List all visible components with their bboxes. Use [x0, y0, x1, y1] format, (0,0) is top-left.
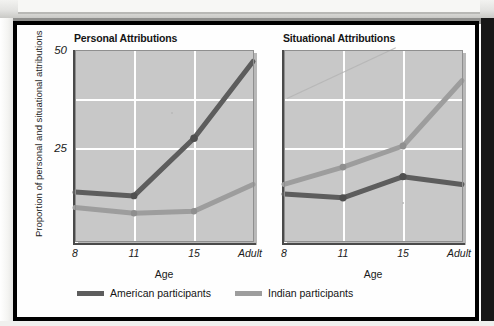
- left-x-tick-15: 15: [182, 247, 206, 259]
- figure-inner: Personal Attributions Situational Attrib…: [17, 25, 475, 317]
- left-point-american-11: [131, 193, 138, 200]
- figure-frame: Personal Attributions Situational Attrib…: [13, 21, 479, 321]
- scan-page-edge-inner: [18, 0, 480, 14]
- scan-bottom-margin: [0, 321, 494, 326]
- scan-right-margin: [481, 18, 494, 326]
- left-chart-x-axis: [73, 243, 256, 245]
- left-x-axis-title: Age: [139, 268, 189, 280]
- y-tick-50: 50: [43, 44, 67, 56]
- legend-swatch-indian-icon: [235, 291, 262, 296]
- right-x-tick-15: 15: [391, 247, 415, 259]
- right-chart-series-svg: [284, 50, 463, 242]
- left-x-tick-11: 11: [122, 247, 146, 259]
- right-point-indian-15: [400, 143, 407, 150]
- left-point-indian-15: [191, 208, 197, 214]
- y-tick-25: 25: [43, 142, 67, 154]
- left-x-tick-adult: Adult: [230, 247, 270, 259]
- left-series-indian-line: [75, 184, 253, 213]
- right-x-axis-title: Age: [348, 268, 398, 280]
- figure-page: Personal Attributions Situational Attrib…: [0, 0, 494, 326]
- legend-swatch-american-icon: [77, 291, 104, 296]
- right-x-tick-8: 8: [272, 247, 296, 259]
- scan-page-edge: [0, 0, 494, 18]
- right-x-tick-adult: Adult: [439, 247, 479, 259]
- left-chart-series-svg: [75, 50, 254, 242]
- right-point-indian-11: [340, 164, 347, 171]
- scan-left-margin: [0, 18, 13, 326]
- left-point-indian-11: [131, 210, 137, 216]
- figure-legend: American participants Indian participant…: [77, 287, 353, 299]
- panel-title-situational: Situational Attributions: [283, 32, 395, 44]
- legend-item-indian: Indian participants: [235, 287, 353, 299]
- right-x-tick-11: 11: [331, 247, 355, 259]
- legend-item-american: American participants: [77, 287, 211, 299]
- legend-label-american: American participants: [110, 287, 211, 299]
- right-chart-x-axis: [282, 243, 465, 245]
- left-point-american-15: [190, 135, 198, 143]
- left-chart-plot-area: [75, 50, 254, 242]
- legend-label-indian: Indian participants: [268, 287, 353, 299]
- right-series-indian-line: [284, 81, 462, 185]
- right-series-american-line: [284, 177, 462, 198]
- right-chart-plot-area: [284, 50, 463, 242]
- right-point-american-11: [339, 194, 346, 201]
- panel-title-personal: Personal Attributions: [74, 32, 177, 44]
- y-axis-label: Proportion of personal and situational a…: [33, 87, 45, 237]
- right-point-american-15: [399, 173, 406, 180]
- left-series-american-line: [75, 62, 253, 196]
- left-x-tick-8: 8: [63, 247, 87, 259]
